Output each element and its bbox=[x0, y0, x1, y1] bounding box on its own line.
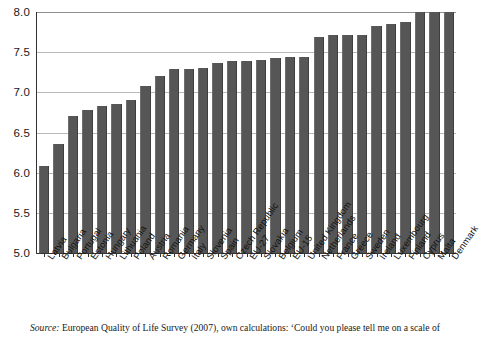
bars-layer bbox=[37, 12, 456, 253]
bar bbox=[386, 24, 396, 253]
bar bbox=[371, 26, 381, 253]
y-tick-label: 7.5 bbox=[13, 46, 30, 58]
source-text: European Quality of Life Survey (2007), … bbox=[62, 322, 440, 333]
y-tick-label: 8.0 bbox=[13, 6, 30, 18]
y-tick-label: 6.5 bbox=[13, 127, 30, 139]
bar bbox=[429, 12, 439, 253]
y-tick-label: 6.0 bbox=[13, 167, 30, 179]
bar bbox=[227, 61, 237, 253]
bar bbox=[357, 35, 367, 254]
bar bbox=[169, 69, 179, 253]
bar bbox=[400, 22, 410, 253]
y-tick-label: 5.5 bbox=[13, 207, 30, 219]
bar bbox=[285, 57, 295, 253]
bar bbox=[39, 166, 49, 253]
y-axis: 8.07.57.06.56.05.55.0 bbox=[0, 0, 33, 265]
bar bbox=[270, 58, 280, 253]
source-label: Source: bbox=[30, 322, 59, 333]
y-tick-label: 7.0 bbox=[13, 86, 30, 98]
bar bbox=[299, 57, 309, 253]
bar bbox=[212, 63, 222, 253]
y-tick-label: 5.0 bbox=[13, 247, 30, 259]
bar bbox=[444, 12, 454, 253]
x-axis-labels: LatviaBulgariaPortugalEstoniaHungaryLith… bbox=[36, 255, 455, 317]
chart-plot-wrapper: 8.07.57.06.56.05.55.0 LatviaBulgariaPort… bbox=[0, 0, 463, 265]
plot-area bbox=[36, 12, 456, 254]
bar bbox=[241, 61, 251, 253]
bar bbox=[314, 37, 324, 253]
bar bbox=[155, 76, 165, 253]
source-note: Source: European Quality of Life Survey … bbox=[30, 322, 460, 334]
